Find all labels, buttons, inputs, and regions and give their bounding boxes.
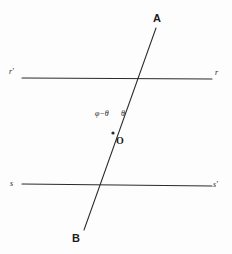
geometry-figure: r' r s s' A B φ−θ θ O	[0, 0, 232, 254]
vertex-point-o	[111, 131, 114, 134]
line-a-b	[84, 28, 156, 230]
figure-canvas	[0, 0, 232, 254]
line-s-sprime	[22, 184, 212, 186]
line-r-rprime	[22, 78, 212, 79]
